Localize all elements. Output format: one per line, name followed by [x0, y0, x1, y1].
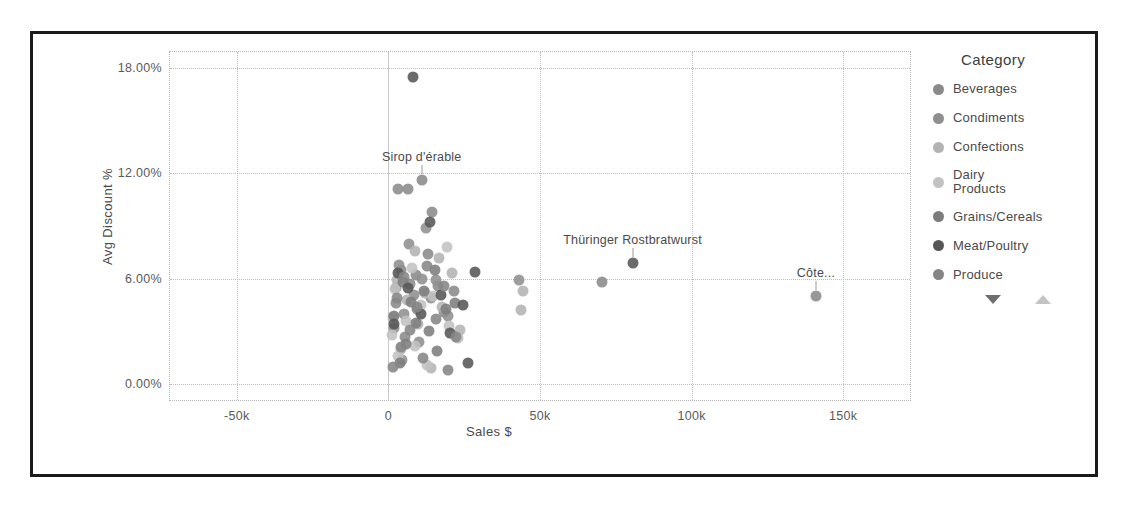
y-axis-tick-label: 0.00%	[125, 377, 162, 391]
scatter-point[interactable]	[434, 252, 445, 263]
scatter-point[interactable]	[518, 286, 529, 297]
gridline-vertical	[692, 52, 693, 400]
legend-item-label: Beverages	[953, 82, 1017, 96]
legend-item-produce[interactable]: Produce	[933, 266, 1093, 283]
legend-item-label: DairyProducts	[953, 168, 1006, 196]
legend-item-label: Meat/Poultry	[953, 239, 1028, 253]
scatter-point[interactable]	[513, 275, 524, 286]
scatter-point[interactable]	[402, 184, 413, 195]
scatter-point[interactable]	[432, 345, 443, 356]
scatter-point[interactable]	[389, 319, 400, 330]
legend-item-label: Condiments	[953, 111, 1024, 125]
scatter-point[interactable]	[450, 331, 461, 342]
scatter-point[interactable]	[418, 286, 429, 297]
legend-item-dairy-products[interactable]: DairyProducts	[933, 168, 1093, 196]
scatter-point[interactable]	[422, 249, 433, 260]
y-axis-title: Avg Discount %	[100, 127, 115, 307]
gridline-vertical	[237, 52, 238, 400]
scatter-point[interactable]	[462, 358, 473, 369]
x-axis-tick-label: 150k	[829, 409, 857, 423]
y-axis-tick-label: 6.00%	[125, 272, 162, 286]
legend-item-label: Grains/Cereals	[953, 210, 1043, 224]
chart-canvas: Avg Discount % 0.00%6.00%12.00%18.00%-50…	[33, 34, 1095, 474]
legend: Category BeveragesCondimentsConfectionsD…	[933, 51, 1093, 401]
scatter-point[interactable]	[424, 326, 435, 337]
legend-scroll-controls	[943, 295, 1093, 304]
x-axis-tick-label: 50k	[529, 409, 550, 423]
scatter-point[interactable]	[425, 217, 436, 228]
legend-scroll-down-icon[interactable]	[985, 295, 1001, 304]
legend-swatch-icon	[933, 240, 944, 251]
x-axis-tick-label: -50k	[224, 409, 250, 423]
x-axis-tick-label: 0	[385, 409, 392, 423]
scatter-point[interactable]	[408, 71, 419, 82]
y-axis-tick-label: 18.00%	[118, 61, 162, 75]
scatter-point[interactable]	[469, 266, 480, 277]
scatter-point[interactable]	[430, 314, 441, 325]
gridline-vertical	[540, 52, 541, 400]
annotation-leader-line	[815, 281, 816, 290]
scatter-point[interactable]	[391, 293, 402, 304]
gridline-vertical	[843, 52, 844, 400]
scatter-point[interactable]	[447, 268, 458, 279]
scatter-point[interactable]	[427, 206, 438, 217]
scatter-point[interactable]	[810, 291, 821, 302]
scatter-point[interactable]	[399, 271, 410, 282]
scatter-point[interactable]	[441, 242, 452, 253]
scatter-point[interactable]	[627, 257, 638, 268]
x-axis-title: Sales $	[169, 424, 809, 439]
scatter-point[interactable]	[443, 365, 454, 376]
legend-title: Category	[961, 51, 1093, 68]
legend-item-meat-poultry[interactable]: Meat/Poultry	[933, 237, 1093, 254]
plot-area: 0.00%6.00%12.00%18.00%-50k050k100k150kSi…	[169, 51, 911, 401]
legend-swatch-icon	[933, 177, 944, 188]
legend-item-list: BeveragesCondimentsConfectionsDairyProdu…	[933, 81, 1093, 283]
y-axis-tick-label: 12.00%	[118, 166, 162, 180]
legend-item-confections[interactable]: Confections	[933, 139, 1093, 156]
annotation-leader-line	[421, 165, 422, 174]
legend-swatch-icon	[933, 142, 944, 153]
scatter-point[interactable]	[417, 273, 428, 284]
scatter-point[interactable]	[412, 301, 423, 312]
annotation-leader-line	[632, 248, 633, 257]
point-annotation-label: Thüringer Rostbratwurst	[563, 233, 702, 247]
scatter-point[interactable]	[409, 245, 420, 256]
legend-swatch-icon	[933, 113, 944, 124]
gridline-vertical	[388, 52, 389, 400]
legend-item-beverages[interactable]: Beverages	[933, 81, 1093, 98]
legend-swatch-icon	[933, 269, 944, 280]
scatter-point[interactable]	[516, 305, 527, 316]
legend-swatch-icon	[933, 84, 944, 95]
scatter-point[interactable]	[416, 175, 427, 186]
scatter-point[interactable]	[396, 342, 407, 353]
scatter-point[interactable]	[404, 324, 415, 335]
point-annotation-label: Côte...	[797, 266, 835, 280]
legend-scroll-up-icon[interactable]	[1035, 295, 1051, 304]
scatter-point[interactable]	[422, 261, 433, 272]
legend-item-condiments[interactable]: Condiments	[933, 110, 1093, 127]
chart-panel: Avg Discount % 0.00%6.00%12.00%18.00%-50…	[30, 31, 1098, 477]
scatter-point[interactable]	[457, 300, 468, 311]
scatter-point[interactable]	[387, 361, 398, 372]
scatter-point[interactable]	[387, 329, 398, 340]
legend-item-label: Produce	[953, 268, 1003, 282]
scatter-point[interactable]	[439, 280, 450, 291]
x-axis-tick-label: 100k	[677, 409, 705, 423]
legend-item-grains-cereals[interactable]: Grains/Cereals	[933, 208, 1093, 225]
scatter-point[interactable]	[417, 352, 428, 363]
point-annotation-label: Sirop d'érable	[382, 150, 462, 164]
scatter-point[interactable]	[597, 277, 608, 288]
scatter-point[interactable]	[403, 282, 414, 293]
legend-swatch-icon	[933, 211, 944, 222]
legend-item-label: Confections	[953, 140, 1024, 154]
